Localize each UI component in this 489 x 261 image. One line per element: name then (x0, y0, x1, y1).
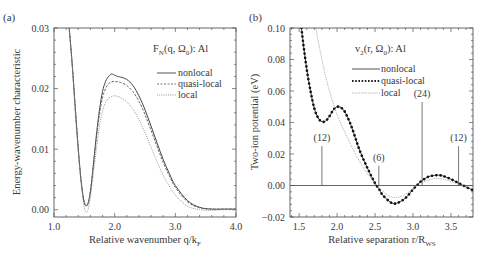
legend-local: local (178, 89, 198, 100)
panel-b-x-tick-labels: 1.52.02.53.03.5 (293, 221, 457, 232)
x-tick-label: 1.0 (48, 221, 61, 232)
panel-b-curves (301, 28, 473, 204)
shell-label: (12) (450, 132, 467, 144)
x-tick-label: 3.0 (169, 221, 182, 232)
panel-a-x-tick-labels: 1.02.03.04.0 (48, 221, 243, 232)
y-tick-label: 0.00 (268, 180, 286, 191)
panel-b-x-axis-label: Relative separation r/RWS (328, 234, 435, 248)
panel-a-y-tick-labels: 0.000.010.020.03 (32, 23, 50, 216)
y-tick-label: 0.00 (32, 204, 50, 215)
x-tick-label: 3.5 (445, 221, 458, 232)
panel-a-legend: nonlocal quasi-local local (157, 67, 222, 100)
shell-label: (6) (373, 152, 385, 164)
series-quasi-local (69, 28, 236, 209)
shell-label: (24) (414, 88, 431, 100)
legend-nonlocal: nonlocal (178, 67, 213, 78)
figure: (a) 0.000.010.020.03 1.02.03.04.0 FN(q, … (0, 0, 489, 261)
y-tick-label: 0.02 (32, 83, 50, 94)
panel-b-y-tick-labels: −0.020.000.020.040.060.080.10 (262, 23, 285, 223)
y-tick-label: −0.02 (262, 212, 285, 223)
y-tick-label: 0.10 (268, 23, 286, 34)
panel-b-shell-annotations: (12)(6)(24)(12) (314, 88, 467, 185)
legend-quasi-local: quasi-local (178, 78, 222, 89)
panel-a-title: FN(q, Ω0): Al (153, 43, 208, 57)
x-tick-label: 2.0 (331, 221, 344, 232)
y-tick-label: 0.06 (268, 86, 286, 97)
legend-local: local (381, 87, 401, 98)
series-nonlocal (301, 28, 473, 204)
y-tick-label: 0.03 (32, 23, 50, 34)
panel-a-curves (69, 28, 236, 212)
series-nonlocal (69, 28, 236, 209)
x-tick-label: 2.0 (108, 221, 121, 232)
shell-label: (12) (314, 132, 331, 144)
x-tick-label: 1.5 (293, 221, 306, 232)
legend-nonlocal: nonlocal (381, 63, 416, 74)
panel-b-label: (b) (249, 11, 262, 24)
panel-b-title: v2(r, Ω0): Al (355, 43, 406, 57)
y-tick-label: 0.02 (268, 149, 286, 160)
panel-a: (a) 0.000.010.020.03 1.02.03.04.0 FN(q, … (3, 11, 242, 248)
panel-a-y-axis-label: Energy-wavenumber characteristic (11, 48, 22, 195)
x-tick-label: 2.5 (369, 221, 382, 232)
series-local (69, 28, 236, 212)
panel-a-x-axis-label: Relative wavenumber q/kF (89, 234, 201, 248)
panel-a-label: (a) (3, 11, 16, 24)
legend-quasi-local: quasi-local (381, 75, 425, 86)
panel-b-y-axis-label: Two-ion potential (eV) (249, 73, 261, 170)
x-tick-label: 4.0 (230, 221, 243, 232)
panel-b: (b) −0.020.000.020.040.060.080.10 1.52.0… (249, 11, 473, 248)
y-tick-label: 0.08 (268, 54, 286, 65)
x-tick-label: 3.0 (407, 221, 420, 232)
y-tick-label: 0.01 (32, 144, 50, 155)
panel-b-frame (290, 28, 473, 217)
y-tick-label: 0.04 (268, 117, 286, 128)
panel-b-ticks (290, 28, 473, 217)
